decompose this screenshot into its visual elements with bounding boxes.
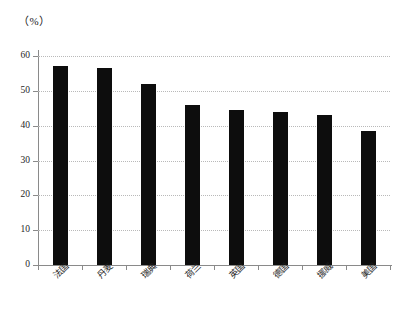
x-tick-mark xyxy=(390,265,391,270)
bar xyxy=(185,105,200,265)
x-tick-mark xyxy=(170,265,171,270)
y-tick-label: 60 xyxy=(8,51,30,61)
x-axis-line xyxy=(38,265,392,266)
bar xyxy=(317,115,332,265)
x-tick-mark xyxy=(82,265,83,270)
gridline xyxy=(38,195,390,196)
bar xyxy=(273,112,288,265)
x-tick-mark xyxy=(302,265,303,270)
gridline xyxy=(38,161,390,162)
bar xyxy=(141,84,156,265)
bar xyxy=(229,110,244,265)
bar xyxy=(53,66,68,265)
y-tick-label: 10 xyxy=(8,225,30,235)
y-tick-label: 30 xyxy=(8,156,30,166)
x-tick-mark xyxy=(38,265,39,270)
plot-area xyxy=(38,56,390,265)
x-tick-mark xyxy=(214,265,215,270)
y-tick-label: 40 xyxy=(8,121,30,131)
y-tick-label: 50 xyxy=(8,86,30,96)
gridline xyxy=(38,91,390,92)
bar xyxy=(361,131,376,265)
bar-chart: （%） 0102030405060 法国丹麦瑞典荷兰英国德国挪威美国 xyxy=(0,0,408,311)
x-tick-mark xyxy=(258,265,259,270)
x-tick-mark xyxy=(126,265,127,270)
gridline xyxy=(38,126,390,127)
y-axis-unit-label: （%） xyxy=(18,12,51,28)
gridline xyxy=(38,56,390,57)
bar xyxy=(97,68,112,265)
y-tick-label: 20 xyxy=(8,190,30,200)
x-tick-mark xyxy=(346,265,347,270)
gridline xyxy=(38,230,390,231)
y-tick-label: 0 xyxy=(8,260,30,270)
